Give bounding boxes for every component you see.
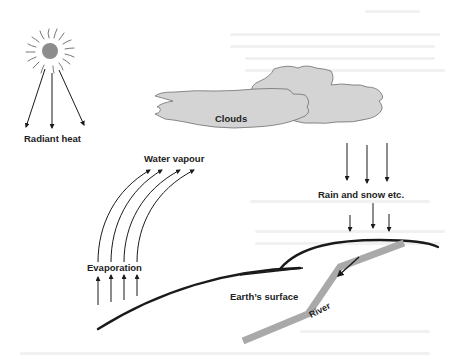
water-vapour-label: Water vapour xyxy=(144,153,204,164)
earth-surface xyxy=(98,240,438,329)
evaporation-label: Evaporation xyxy=(87,262,142,273)
rain-arrows-lower xyxy=(350,203,389,231)
earths-surface-label: Earth’s surface xyxy=(230,291,298,302)
rain-and-snow-label: Rain and snow etc. xyxy=(318,189,404,200)
diagram-canvas: River xyxy=(0,0,457,362)
clouds-label: Clouds xyxy=(215,113,247,124)
clouds-shape xyxy=(155,66,383,128)
rain-arrows-upper xyxy=(347,143,387,183)
radiant-heat-label: Radiant heat xyxy=(24,133,81,144)
sun-icon xyxy=(26,29,74,73)
water-cycle-diagram: River Radiant heat Clouds Water vapour R… xyxy=(0,0,457,362)
water-vapour-arrows xyxy=(98,170,194,262)
evaporation-arrows xyxy=(98,275,137,305)
radiant-heat-arrows xyxy=(26,69,84,128)
